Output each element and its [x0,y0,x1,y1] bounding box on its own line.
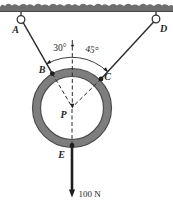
label-angle-30: 30° [53,43,67,53]
label-point-b: B [38,64,46,75]
arc-arrowhead-left [46,60,51,64]
point-b-dot [50,71,55,76]
label-force-magnitude: 100 N [79,189,102,199]
hook-d-ring-icon [152,15,160,23]
point-p-arrowhead [70,104,74,109]
point-c-dot [99,77,104,82]
label-point-d: D [159,23,167,34]
force-arrowhead [69,190,75,198]
ring-band [37,73,108,144]
hook-a-ring-icon [17,16,25,24]
diagram-canvas: A D 30° 45° B C P E [0,0,173,212]
label-angle-45: 45° [85,44,100,56]
label-point-a: A [11,24,19,35]
vertical-line-tick-dot [71,44,74,47]
label-point-c: C [104,71,111,82]
label-point-p: P [60,109,67,120]
label-point-e: E [57,149,65,160]
statics-diagram: A D 30° 45° B C P E [0,0,173,212]
ceiling [0,4,173,12]
